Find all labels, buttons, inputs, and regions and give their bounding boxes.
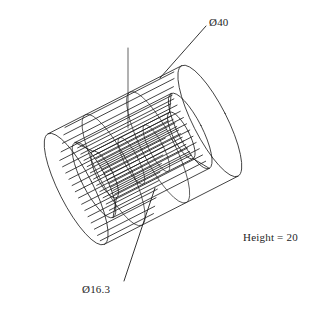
leader-line-bore-diameter [124, 188, 155, 281]
leader-line-outer-diameter [160, 26, 206, 78]
wireframe-geometry [33, 26, 253, 281]
dimension-label-outer-diameter: Ø40 [209, 16, 229, 28]
height-note-label: Height = 20 [243, 231, 298, 243]
dimension-label-bore-diameter: Ø16.3 [82, 283, 110, 295]
wireframe-svg [0, 0, 322, 325]
cad-drawing-canvas: Ø40 Ø16.3 Height = 20 [0, 0, 322, 325]
mid-cylinder [64, 88, 220, 223]
outer-rulings [47, 67, 237, 241]
